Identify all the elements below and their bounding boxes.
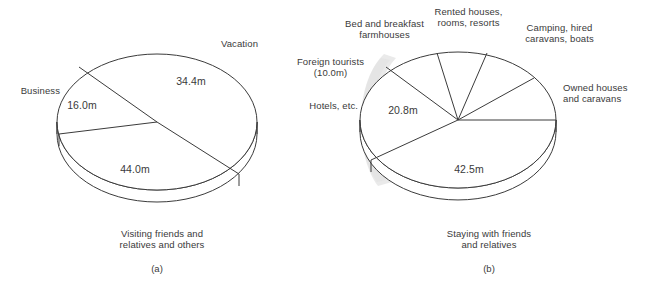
chart-b-label-rented-houses-line1: Rented houses,: [435, 6, 503, 17]
chart-b-value-hotels: 20.8m: [373, 104, 433, 116]
chart-b-value-staying: 42.5m: [439, 163, 499, 175]
chart-a-label-business: Business: [0, 85, 60, 96]
chart-b-label-camping-line1: Camping, hired: [527, 22, 593, 33]
chart-a-label-vacation: Vacation: [221, 38, 258, 49]
chart-a-value-business: 16.0m: [52, 99, 112, 111]
chart-b-label-foreign-tourists: Foreign tourists(10.0m): [283, 56, 378, 78]
chart-b-label-foreign-tourists-line2: (10.0m): [314, 67, 347, 78]
chart-b-pie: [360, 52, 556, 200]
chart-b-label-rented-houses: Rented houses,rooms, resorts: [416, 6, 521, 28]
chart-a-label-visiting: Visiting friends andrelatives and others: [92, 228, 232, 250]
chart-a-pie: [57, 54, 257, 202]
chart-b-label-owned-houses: Owned housesand caravans: [563, 82, 653, 104]
chart-a-label-visiting-line1: Visiting friends and: [121, 228, 203, 239]
chart-b-label-bed-and-breakfast-line1: Bed and breakfast: [345, 18, 424, 29]
chart-b-label-owned-houses-line2: and caravans: [563, 93, 621, 104]
chart-b-label-staying-line1: Staying with friends: [447, 228, 531, 239]
two-pie-chart-figure: Vacation Business Visiting friends andre…: [0, 0, 654, 283]
chart-b-label-staying-line2: and relatives: [461, 239, 516, 250]
chart-a-value-visiting: 44.0m: [105, 163, 165, 175]
chart-b-label-rented-houses-line2: rooms, resorts: [437, 17, 499, 28]
chart-b-caption: (b): [459, 263, 519, 274]
chart-b-label-staying: Staying with friendsand relatives: [424, 228, 554, 250]
chart-b-label-hotels: Hotels, etc.: [283, 100, 358, 111]
chart-b-label-camping: Camping, hiredcaravans, boats: [507, 22, 612, 44]
chart-a-label-visiting-line2: relatives and others: [120, 239, 205, 250]
chart-b-label-bed-and-breakfast-line2: farmhouses: [359, 29, 410, 40]
chart-a-value-vacation: 34.4m: [161, 75, 221, 87]
chart-b-label-foreign-tourists-line1: Foreign tourists: [297, 56, 364, 67]
chart-b-label-owned-houses-line1: Owned houses: [563, 82, 628, 93]
chart-a-caption: (a): [127, 263, 187, 274]
chart-b-label-camping-line2: caravans, boats: [525, 33, 594, 44]
